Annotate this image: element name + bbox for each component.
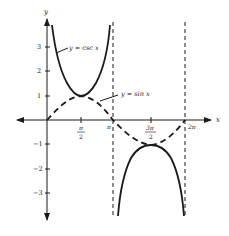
plot-area: y x y = csc x y = sin x 3 2 1 −1 −2 −3 π…: [0, 0, 229, 236]
csc-curve-label: y = csc x: [68, 44, 99, 52]
svg-text:3π: 3π: [146, 124, 155, 131]
y-axis-label: y: [43, 8, 49, 16]
x-tick-label-2pi: 2π: [187, 123, 197, 130]
csc-curve-upper-branch: [52, 25, 110, 96]
x-tick-label-pi: π: [106, 123, 112, 130]
sin-label-pointer: [100, 95, 118, 101]
y-tick-label-neg2: −2: [33, 165, 43, 173]
x-tick-label-pi-half: π 2: [77, 124, 85, 140]
y-tick-label-neg1: −1: [33, 140, 43, 148]
asymptotes: [113, 22, 185, 216]
csc-label-pointer: [56, 48, 68, 53]
y-tick-label-2: 2: [37, 67, 41, 75]
x-axis-label: x: [216, 116, 220, 124]
svg-text:2: 2: [149, 133, 153, 140]
x-tick-label-3pi-half: 3π 2: [145, 124, 156, 140]
y-tick-label-neg3: −3: [33, 189, 43, 197]
sin-curve-label: y = sin x: [120, 90, 150, 98]
y-tick-label-3: 3: [37, 43, 41, 51]
y-tick-label-1: 1: [37, 92, 41, 100]
csc-sin-graph: y x y = csc x y = sin x 3 2 1 −1 −2 −3 π…: [0, 0, 229, 236]
csc-curve-lower-branch: [118, 145, 184, 216]
svg-text:π: π: [78, 124, 84, 131]
svg-text:2: 2: [79, 133, 83, 140]
